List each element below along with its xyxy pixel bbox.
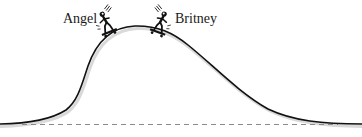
label-britney: Britney bbox=[175, 12, 217, 26]
skater-hill-diagram: Angel Britney bbox=[0, 0, 362, 137]
hill-curve bbox=[0, 26, 362, 124]
hill-shadow bbox=[0, 28, 362, 126]
label-angel: Angel bbox=[63, 12, 97, 26]
